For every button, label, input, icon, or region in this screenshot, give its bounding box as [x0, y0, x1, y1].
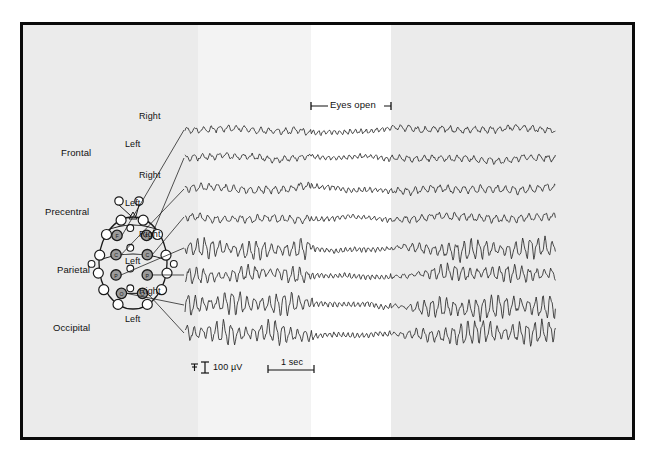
eeg-trace: [185, 263, 555, 284]
electrode-active-label: P: [114, 273, 118, 279]
electrode-open: [138, 215, 148, 225]
channel-side-label-parietal-left: Left: [125, 256, 140, 266]
electrode-active-label: C: [145, 252, 149, 258]
electrode-open: [161, 250, 171, 260]
electrode-open-small: [170, 261, 177, 268]
eeg-trace: [185, 153, 555, 165]
fan-connector-line: [148, 293, 184, 333]
channel-side-label-precentral-right: Right: [139, 170, 161, 180]
time-scale-label: 1 sec: [281, 357, 303, 367]
eeg-trace: [185, 292, 555, 322]
channel-side-label-parietal-right: Right: [139, 229, 161, 239]
electrode-open: [93, 268, 103, 278]
channel-side-label-frontal-right: Right: [139, 111, 161, 121]
eeg-figure-stage: FFCCPPOO RightLeftRightLeftRightLeftRigh…: [23, 25, 632, 437]
electrode-open: [115, 197, 123, 205]
electrode-open-small: [127, 285, 134, 292]
eeg-trace: [185, 182, 555, 196]
electrode-open: [142, 299, 152, 309]
region-label-frontal: Frontal: [61, 147, 91, 158]
electrode-open: [113, 299, 123, 309]
electrode-open: [116, 215, 126, 225]
channel-side-label-occipital-left: Left: [125, 314, 140, 324]
channel-side-label-frontal-left: Left: [125, 139, 140, 149]
eeg-trace: [185, 319, 555, 347]
region-label-parietal: Parietal: [57, 264, 90, 275]
eeg-trace: [185, 236, 555, 263]
eeg-trace: [185, 212, 555, 224]
channel-side-label-precentral-left: Left: [125, 198, 140, 208]
eeg-figure-frame: FFCCPPOO RightLeftRightLeftRightLeftRigh…: [20, 22, 635, 440]
eeg-vector-layer: FFCCPPOO: [23, 25, 632, 437]
electrode-open: [99, 285, 109, 295]
head-diagram-group: FFCCPPOO: [88, 197, 177, 310]
amplitude-scale-label: 100 µV: [213, 362, 242, 372]
electrode-active-label: C: [114, 252, 118, 258]
electrode-active-label: O: [119, 291, 123, 297]
eyes-open-label: Eyes open: [330, 99, 376, 110]
electrode-open: [101, 229, 111, 239]
eeg-trace: [185, 125, 555, 136]
region-label-occipital: Occipital: [53, 322, 90, 333]
region-label-precentral: Precentral: [45, 206, 89, 217]
eeg-traces: [185, 125, 555, 347]
electrode-active-label: P: [146, 273, 150, 279]
electrode-active-label: F: [115, 233, 118, 239]
electrode-open: [95, 250, 105, 260]
channel-side-label-occipital-right: Right: [139, 286, 161, 296]
electrode-open: [162, 268, 172, 278]
